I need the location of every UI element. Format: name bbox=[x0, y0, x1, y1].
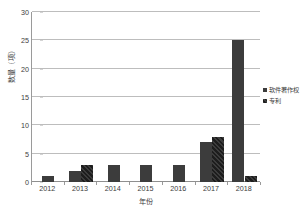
x-tick-label: 2018 bbox=[236, 184, 252, 193]
y-tick-label: 5 bbox=[12, 149, 29, 158]
x-tick-label: 2012 bbox=[39, 184, 55, 193]
x-tick-mark bbox=[195, 182, 196, 185]
x-tick-label: 2014 bbox=[105, 184, 121, 193]
legend-label: 专利 bbox=[269, 98, 281, 104]
y-tick-label: 0 bbox=[12, 178, 29, 187]
bar-group bbox=[196, 12, 229, 182]
legend-item[interactable]: 专利 bbox=[263, 98, 307, 104]
y-tick-label: 15 bbox=[12, 93, 29, 102]
bars-layer bbox=[32, 12, 260, 182]
x-tick-mark bbox=[162, 182, 163, 185]
x-tick-mark bbox=[31, 182, 32, 185]
x-axis-title: 年份 bbox=[31, 196, 260, 206]
bar-group bbox=[130, 12, 163, 182]
y-tick-label: 20 bbox=[12, 64, 29, 73]
x-tick-label: 2015 bbox=[138, 184, 154, 193]
bar bbox=[140, 165, 152, 182]
y-axis-tick-labels: 051015202530 bbox=[12, 0, 29, 214]
chart-legend: 软件著作权专利 bbox=[263, 87, 307, 109]
bar-group bbox=[97, 12, 130, 182]
bar bbox=[200, 142, 212, 182]
x-axis-tick-labels: 2012201320142015201620172018 bbox=[31, 184, 260, 196]
bar bbox=[232, 40, 244, 182]
bar bbox=[173, 165, 185, 182]
legend-swatch-icon bbox=[263, 99, 267, 103]
bar bbox=[108, 165, 120, 182]
x-tick-mark bbox=[96, 182, 97, 185]
x-tick-mark bbox=[129, 182, 130, 185]
x-tick-label: 2017 bbox=[203, 184, 219, 193]
legend-item[interactable]: 软件著作权 bbox=[263, 87, 307, 93]
x-tick-mark bbox=[260, 182, 261, 185]
legend-swatch-icon bbox=[263, 88, 267, 92]
bar bbox=[69, 171, 81, 182]
bar bbox=[81, 165, 93, 182]
bar-chart-figure: 数量（项） 051015202530 201220132014201520162… bbox=[0, 0, 307, 214]
bar bbox=[212, 137, 224, 182]
x-tick-mark bbox=[227, 182, 228, 185]
y-tick-label: 25 bbox=[12, 36, 29, 45]
y-tick-label: 10 bbox=[12, 121, 29, 130]
bar bbox=[42, 176, 54, 182]
bar-group bbox=[32, 12, 65, 182]
x-tick-mark bbox=[64, 182, 65, 185]
bar-group bbox=[228, 12, 261, 182]
bar bbox=[245, 176, 257, 182]
bar-group bbox=[65, 12, 98, 182]
x-tick-label: 2016 bbox=[170, 184, 186, 193]
bar-group bbox=[163, 12, 196, 182]
plot-area bbox=[31, 12, 260, 182]
x-tick-label: 2013 bbox=[72, 184, 88, 193]
legend-label: 软件著作权 bbox=[269, 87, 299, 93]
y-tick-label: 30 bbox=[12, 8, 29, 17]
